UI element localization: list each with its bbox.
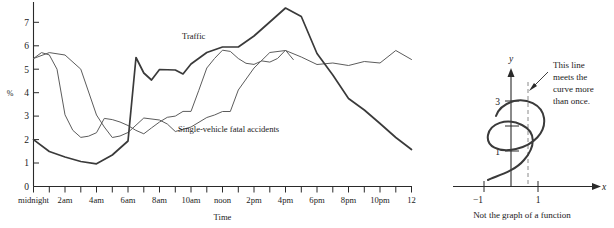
- y-axis-label: %: [7, 89, 14, 98]
- x-tick-label-4am: 4am: [89, 195, 104, 205]
- x-tick-label-6am: 6am: [121, 195, 136, 205]
- x-tick-marks: [34, 187, 412, 193]
- vertical-line-test-diagram: −1 1 1 3 x y This line meets the curve m…: [440, 0, 614, 228]
- y-tick-label-0: 0: [24, 182, 29, 192]
- x-tick-label-8pm: 8pm: [341, 195, 357, 205]
- x-tick-label-2pm: 2pm: [246, 195, 262, 205]
- y-tick-label-5: 5: [24, 65, 29, 75]
- series-line-traffic: [34, 8, 412, 164]
- x-tick-label-noon: noon: [214, 195, 232, 205]
- x-tick-label-neg-one: −1: [473, 195, 483, 205]
- y-tick-label-4: 4: [24, 88, 29, 98]
- annotation-line-2: meets the: [553, 72, 587, 82]
- right-y-axis-name: y: [508, 54, 514, 64]
- y-tick-label-6: 6: [24, 41, 29, 51]
- annotation-line-1: This line: [553, 60, 585, 70]
- series-label-accidents: Single-vehicle fatal accidents: [178, 124, 280, 134]
- x-tick-label-10am: 10am: [181, 195, 200, 205]
- right-figure-caption: Not the graph of a function: [473, 210, 571, 220]
- x-axis-label: Time: [214, 212, 232, 222]
- x-tick-label-8am: 8am: [152, 195, 167, 205]
- series-label-traffic: Traffic: [182, 31, 206, 41]
- annotation-line-4: than once.: [553, 96, 590, 106]
- sinusoid-curve: [488, 100, 544, 180]
- figure-root: 0 1 2 3 4 5 6 7 %: [0, 0, 614, 228]
- x-tick-label-12: 12: [407, 195, 416, 205]
- x-axis-arrowhead: [592, 183, 601, 190]
- y-tick-label-1: 1: [24, 158, 29, 168]
- x-tick-label-6pm: 6pm: [309, 195, 325, 205]
- traffic-accidents-line-chart: 0 1 2 3 4 5 6 7 %: [0, 0, 440, 228]
- y-tick-label-7: 7: [24, 18, 29, 28]
- x-tick-label-midnight: midnight: [18, 195, 50, 205]
- y-tick-label-3: 3: [24, 111, 29, 121]
- x-tick-label-4pm: 4pm: [278, 195, 294, 205]
- x-tick-label-one: 1: [536, 195, 541, 205]
- y-axis-arrowhead: [508, 68, 515, 77]
- annotation-line-3: curve more: [553, 84, 594, 94]
- y-tick-label-2: 2: [24, 135, 29, 145]
- x-tick-label-2am: 2am: [58, 195, 73, 205]
- right-x-axis-name: x: [601, 182, 607, 192]
- y-tick-label-three: 3: [495, 97, 500, 107]
- y-tick-marks: [34, 22, 40, 186]
- x-tick-label-10pm: 10pm: [370, 195, 390, 205]
